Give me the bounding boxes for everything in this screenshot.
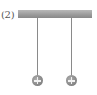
charged-ball-left (32, 75, 43, 86)
figure-label: (2) (1, 9, 14, 20)
ceiling-bar (18, 10, 92, 18)
string-right (71, 18, 72, 75)
string-left (37, 18, 38, 75)
positive-charge-icon (32, 75, 43, 86)
positive-charge-icon (66, 75, 77, 86)
charged-ball-right (66, 75, 77, 86)
